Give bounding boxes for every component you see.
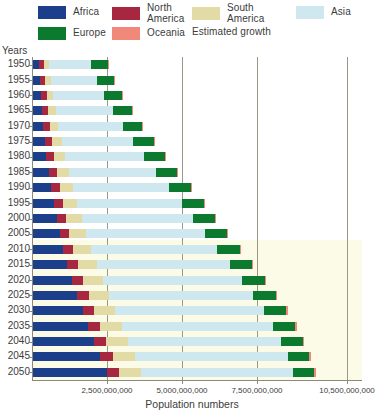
bar-segment-south-america	[94, 306, 115, 315]
bar-segment-oceania	[165, 152, 166, 161]
bar-segment-oceania	[215, 214, 216, 223]
bar-segment-north-america	[63, 245, 73, 254]
y-tick-label-2045: 2045	[0, 350, 30, 361]
y-tick-mark	[28, 111, 32, 112]
y-tick-label-1960: 1960	[0, 89, 30, 100]
stacked-bar	[32, 276, 266, 285]
bar-segment-south-america	[69, 229, 86, 238]
bar-segment-oceania	[286, 306, 287, 315]
bar-row	[32, 352, 362, 361]
bar-segment-north-america	[45, 137, 52, 146]
legend-item-estimated-growth: Estimated growth	[192, 27, 271, 38]
bar-segment-north-america	[57, 214, 66, 223]
bar-segment-south-america	[119, 368, 141, 377]
legend-swatch-icon	[192, 7, 220, 20]
bar-segment-asia	[82, 214, 194, 223]
legend-label: Europe	[73, 28, 106, 39]
y-tick-label-2015: 2015	[0, 258, 30, 269]
bar-row	[32, 260, 362, 269]
bar-segment-oceania	[191, 183, 192, 192]
bar-segment-asia	[65, 152, 144, 161]
bar-segment-asia	[91, 245, 217, 254]
legend-item-africa: Africa	[38, 6, 99, 19]
bar-segment-europe	[293, 368, 314, 377]
bar-segment-asia	[115, 306, 263, 315]
bar-segment-south-america	[60, 183, 73, 192]
bar-segment-south-america	[73, 245, 91, 254]
bar-segment-europe	[281, 337, 303, 346]
legend-label: Estimated growth	[192, 27, 271, 38]
x-axis-line	[32, 380, 362, 381]
bar-segment-oceania	[295, 322, 297, 331]
stacked-bar	[32, 260, 253, 269]
stacked-bar	[32, 199, 205, 208]
bar-segment-africa	[32, 260, 67, 269]
bar-segment-south-america	[63, 199, 77, 208]
bar-segment-asia	[62, 137, 134, 146]
bar-segment-europe	[193, 214, 215, 223]
legend-label: South America	[227, 3, 279, 24]
legend-item-europe: Europe	[38, 27, 106, 40]
x-tick-label: 5,000,000,000	[142, 386, 222, 395]
bar-segment-oceania	[227, 229, 228, 238]
bar-segment-north-america	[77, 291, 88, 300]
y-tick-mark	[28, 219, 32, 220]
stacked-bar	[32, 122, 143, 131]
y-tick-label-1995: 1995	[0, 197, 30, 208]
y-tick-label-1965: 1965	[0, 104, 30, 115]
y-tick-mark	[28, 142, 32, 143]
bar-segment-europe	[169, 183, 191, 192]
bar-row	[32, 152, 362, 161]
bar-row	[32, 322, 362, 331]
stacked-bar	[32, 229, 228, 238]
bar-segment-oceania	[142, 122, 143, 131]
bar-segment-europe	[91, 60, 107, 69]
bar-segment-north-america	[46, 152, 54, 161]
bar-segment-asia	[122, 322, 273, 331]
bar-segment-south-america	[57, 168, 69, 177]
legend-item-oceania: Oceania	[112, 27, 185, 40]
bar-segment-africa	[32, 76, 40, 85]
bar-row	[32, 214, 362, 223]
bar-segment-europe	[253, 291, 275, 300]
bar-segment-asia	[109, 291, 253, 300]
stacked-bar	[32, 322, 297, 331]
stacked-bar	[32, 168, 178, 177]
bar-segment-europe	[273, 322, 295, 331]
bar-segment-north-america	[88, 322, 100, 331]
bar-row	[32, 183, 362, 192]
x-tick-label: 10,500,000,000	[307, 386, 384, 395]
legend-label: Asia	[331, 7, 351, 18]
y-axis-title: Years	[2, 45, 27, 56]
bar-segment-africa	[32, 291, 77, 300]
legend-item-asia: Asia	[296, 6, 351, 19]
y-tick-mark	[28, 157, 32, 158]
bar-segment-north-america	[60, 229, 70, 238]
y-tick-mark	[28, 80, 32, 81]
bar-segment-asia	[97, 260, 230, 269]
legend-swatch-icon	[112, 27, 140, 40]
x-tick-mark	[182, 380, 183, 384]
stacked-bar	[32, 183, 192, 192]
bar-segment-south-america	[106, 337, 128, 346]
bar-segment-south-america	[48, 106, 56, 115]
bar-segment-asia	[128, 337, 281, 346]
bar-segment-asia	[103, 276, 242, 285]
plot-area	[32, 57, 362, 380]
bar-row	[32, 76, 362, 85]
y-tick-mark	[28, 234, 32, 235]
bar-segment-africa	[32, 368, 107, 377]
bar-segment-africa	[32, 276, 72, 285]
bar-segment-asia	[135, 352, 288, 361]
bar-segment-north-america	[43, 122, 50, 131]
bar-segment-africa	[32, 183, 51, 192]
bar-segment-asia	[58, 122, 122, 131]
bar-segment-north-america	[67, 260, 78, 269]
y-tick-mark	[28, 203, 32, 204]
bar-segment-asia	[51, 76, 97, 85]
bar-segment-oceania	[132, 106, 133, 115]
bar-segment-asia	[86, 229, 205, 238]
y-tick-mark	[28, 249, 32, 250]
y-tick-label-2030: 2030	[0, 304, 30, 315]
bar-segment-asia	[69, 168, 156, 177]
